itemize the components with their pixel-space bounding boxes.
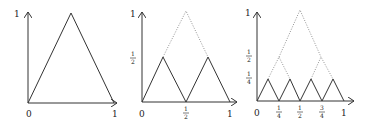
svg-text:2: 2	[184, 113, 188, 120]
x-label-three-quarters: 3 4	[319, 104, 325, 119]
svg-text:2: 2	[298, 112, 302, 119]
x-label-half: 1 2	[183, 105, 189, 120]
panel-2: 1 1 2 0 1 2 1	[130, 9, 237, 120]
svg-text:4: 4	[277, 112, 281, 119]
dotted-envelope-left	[268, 57, 290, 79]
x-label-0: 0	[254, 108, 260, 118]
x-label-1: 1	[341, 108, 347, 118]
x-label-1: 1	[112, 109, 118, 119]
svg-text:1: 1	[247, 48, 251, 55]
y-label-1: 1	[245, 8, 251, 18]
y-label-1: 1	[14, 9, 20, 19]
dotted-envelope-right	[311, 57, 333, 79]
y-label-half: 1 2	[246, 48, 252, 63]
dotted-envelope	[163, 11, 208, 57]
y-label-1: 1	[130, 9, 136, 19]
svg-text:2: 2	[131, 58, 135, 65]
tent-curve	[28, 13, 114, 103]
svg-text:1: 1	[298, 104, 302, 111]
x-label-quarter: 1 4	[276, 104, 282, 119]
svg-text:3: 3	[320, 104, 324, 111]
x-label-0: 0	[139, 109, 145, 119]
svg-text:1: 1	[247, 70, 251, 77]
y-label-half: 1 2	[130, 50, 136, 65]
dotted-envelope-outer	[279, 10, 321, 57]
tent-map-diagram: 1 0 1 1 1 2 0 1 2 1 1 1	[0, 0, 368, 126]
y-label-quarter: 1 4	[246, 70, 252, 85]
tent-curve	[257, 79, 344, 101]
svg-text:1: 1	[277, 104, 281, 111]
x-label-half: 1 2	[297, 104, 303, 119]
panel-3: 1 1 2 1 4 0 1 4 1 2 3 4 1	[245, 8, 354, 119]
x-label-0: 0	[26, 109, 32, 119]
panel-1: 1 0 1	[14, 9, 118, 119]
svg-text:4: 4	[247, 78, 251, 85]
svg-text:4: 4	[320, 112, 324, 119]
x-label-1: 1	[227, 109, 233, 119]
svg-text:2: 2	[247, 56, 251, 63]
tent-curve	[142, 57, 230, 102]
svg-text:1: 1	[131, 50, 135, 57]
svg-text:1: 1	[184, 105, 188, 112]
